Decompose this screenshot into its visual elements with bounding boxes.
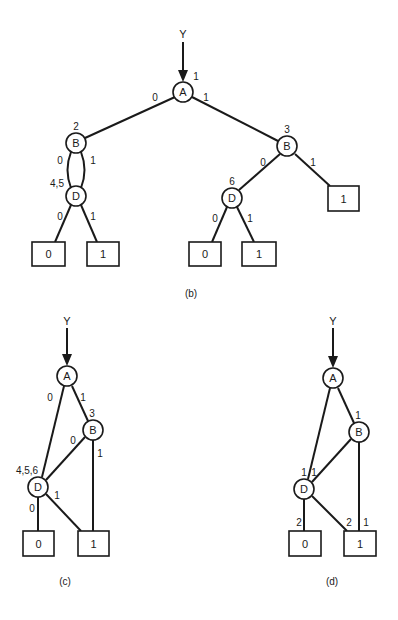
caption-d: (d) (326, 576, 338, 587)
svg-text:1: 1 (100, 248, 106, 260)
edge-label: 1 (54, 490, 60, 501)
edge-label: 1 (363, 517, 369, 528)
terminal-0: 0 (189, 242, 221, 266)
svg-text:A: A (63, 370, 71, 382)
edge-b-d (312, 439, 351, 482)
node-b-right: B 3 (277, 124, 297, 157)
node-a: A (57, 366, 77, 386)
edge-label: 1 (247, 213, 253, 224)
svg-text:1: 1 (301, 467, 307, 478)
edge-bl-dl-0 (68, 152, 72, 188)
svg-text:3: 3 (89, 408, 95, 419)
diagram-c: Y 0 1 0 1 0 1 A B 3 D 4,5,6 (16, 315, 109, 587)
edge-a-br (192, 97, 278, 141)
input-label-y: Y (179, 28, 187, 40)
node-b-left: B 2 (66, 121, 86, 154)
terminal-1: 1 (344, 531, 376, 556)
svg-text:D: D (300, 483, 308, 495)
edge-label: 0 (29, 503, 35, 514)
caption-c: (c) (59, 576, 71, 587)
svg-text:D: D (72, 190, 80, 202)
node-d: D 1 1 (294, 467, 317, 500)
terminal-1: 1 (78, 531, 109, 556)
terminal-1: 1 (242, 242, 276, 266)
svg-text:A: A (329, 372, 337, 384)
arrow-head-icon (178, 70, 188, 82)
svg-text:3: 3 (284, 124, 290, 135)
svg-text:4,5,6: 4,5,6 (16, 465, 39, 476)
svg-text:1: 1 (355, 410, 361, 421)
svg-text:A: A (179, 86, 187, 98)
edge-label: 0 (152, 92, 158, 103)
edge-d-t1 (46, 494, 81, 531)
svg-text:1: 1 (90, 538, 96, 550)
svg-text:1: 1 (193, 71, 199, 82)
diagram-b: Y 0 1 0 1 0 1 0 1 0 1 A 1 B 2 (32, 28, 359, 299)
edge-label: 0 (260, 157, 266, 168)
terminal-0: 0 (32, 242, 65, 266)
diagram-d: Y 2 2 1 A B 1 D 1 1 0 (289, 315, 376, 587)
edge-label: 1 (90, 155, 96, 166)
node-a: A 1 (173, 71, 199, 103)
edge-label: 1 (203, 92, 209, 103)
svg-text:1: 1 (357, 538, 363, 550)
caption-b: (b) (185, 288, 197, 299)
edge-label: 0 (47, 392, 53, 403)
edge-label: 0 (57, 155, 63, 166)
node-a: A (323, 368, 343, 388)
svg-text:2: 2 (73, 121, 79, 132)
edge-label: 2 (346, 517, 352, 528)
svg-text:1: 1 (256, 248, 262, 260)
edge-label: 1 (97, 448, 103, 459)
node-b: B 3 (83, 408, 103, 441)
edge-b-d (46, 437, 85, 480)
edge-label: 0 (212, 213, 218, 224)
input-label-y: Y (329, 315, 337, 327)
svg-text:B: B (355, 426, 362, 438)
terminal-0: 0 (23, 531, 54, 556)
edge-label: 2 (296, 517, 302, 528)
svg-text:0: 0 (302, 538, 308, 550)
svg-text:0: 0 (202, 248, 208, 260)
svg-text:0: 0 (35, 538, 41, 550)
arrow-head-icon (62, 354, 72, 366)
svg-text:1: 1 (340, 193, 346, 205)
arrow-head-icon (328, 356, 338, 368)
svg-text:1: 1 (311, 467, 317, 478)
input-label-y: Y (63, 315, 71, 327)
svg-text:B: B (283, 140, 290, 152)
node-b: B 1 (349, 410, 369, 443)
edge-a-b (338, 388, 354, 423)
edge-label: 0 (70, 435, 76, 446)
edge-d-t1 (312, 496, 347, 531)
svg-text:4,5: 4,5 (50, 178, 64, 189)
svg-text:B: B (72, 137, 79, 149)
svg-text:0: 0 (45, 248, 51, 260)
node-d-right: D 6 (222, 176, 242, 209)
terminal-0: 0 (289, 531, 321, 556)
terminal-1: 1 (87, 242, 119, 266)
terminal-1: 1 (328, 186, 359, 211)
svg-text:D: D (228, 192, 236, 204)
svg-text:6: 6 (229, 176, 235, 187)
edge-label: 1 (310, 157, 316, 168)
edge-a-bl (85, 97, 175, 138)
edge-bl-dl-1 (81, 152, 85, 188)
svg-text:B: B (89, 424, 96, 436)
svg-text:D: D (34, 481, 42, 493)
edge-label: 1 (80, 392, 86, 403)
edge-label: 1 (90, 211, 96, 222)
edge-label: 0 (57, 211, 63, 222)
